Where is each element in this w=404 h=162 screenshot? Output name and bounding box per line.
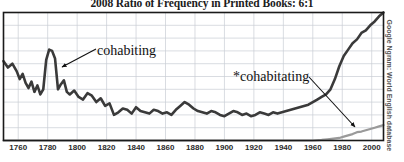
chart-plot-area <box>0 0 404 162</box>
annotation-cohabitating: *cohabitating <box>233 69 309 85</box>
ngram-ratio-figure: 2008 Ratio of Frequency in Printed Books… <box>0 0 404 162</box>
annotation-cohabiting: cohabiting <box>97 43 156 59</box>
source-attribution-label: Google Ngram: World English database <box>386 20 393 116</box>
